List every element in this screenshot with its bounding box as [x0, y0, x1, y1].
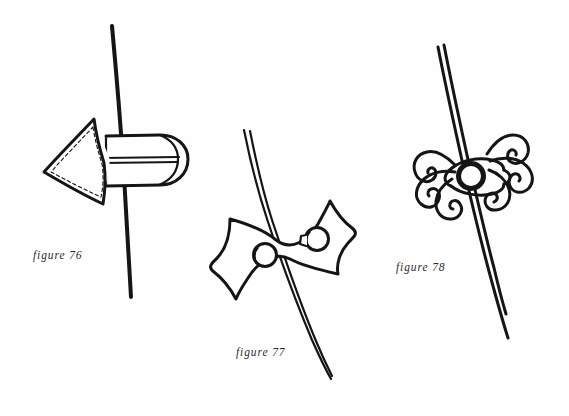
triangle-flap-76: [44, 119, 110, 204]
illustration-page: .ink { fill:none; stroke:#151515; stroke…: [0, 0, 569, 416]
figure-76-caption: figure 76: [33, 249, 83, 261]
button-left-77: [254, 244, 277, 267]
scroll-loop-left-78: [414, 152, 461, 219]
bowtie-panel-77: [211, 201, 356, 299]
toggle-tab-76: [103, 135, 188, 186]
ball-button-78: [458, 163, 484, 189]
figure-78-drawing: [414, 45, 532, 338]
figure-77-caption: figure 77: [236, 346, 286, 358]
figure-78-caption: figure 78: [396, 261, 446, 273]
figure-77-drawing: [211, 130, 356, 379]
